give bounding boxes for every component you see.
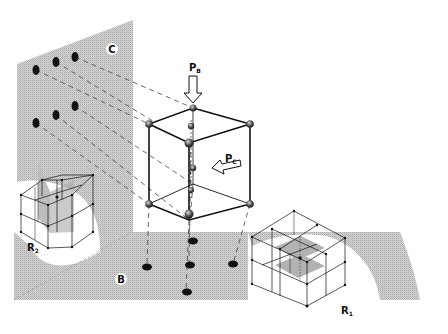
pressure-arrow-pb	[184, 76, 202, 103]
label-c: C	[106, 43, 118, 55]
label-pc: PC	[225, 153, 237, 165]
diagram-svg: C B PB PC R2 R1	[0, 0, 448, 334]
label-b: B	[115, 273, 127, 285]
label-r2: R2	[27, 242, 39, 254]
svg-text:R1: R1	[341, 305, 353, 317]
svg-text:B: B	[117, 274, 125, 285]
plane-b	[14, 232, 420, 300]
svg-text:PC: PC	[225, 153, 237, 165]
diagram-canvas: C B PB PC R2 R1	[0, 0, 448, 334]
svg-text:PB: PB	[189, 62, 201, 74]
label-r1: R1	[341, 305, 353, 317]
svg-text:R2: R2	[27, 242, 39, 254]
svg-text:C: C	[108, 44, 115, 55]
lattice-r1-nodes	[251, 210, 346, 308]
label-pb: PB	[189, 62, 201, 74]
